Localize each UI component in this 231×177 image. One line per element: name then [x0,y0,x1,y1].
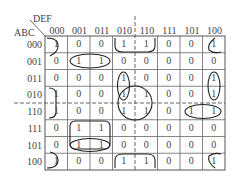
kmap-cell: 0 [68,86,91,103]
kmap-cell: 0 [158,137,181,154]
kmap-cell: 1 [203,153,226,170]
kmap-cell: 0 [203,120,226,137]
kmap-cell: 0 [203,53,226,70]
kmap-cell: 0 [90,103,113,120]
kmap-cell: 0 [158,53,181,70]
kmap-cell: 1 [68,120,91,137]
kmap-cell: 0 [135,70,158,87]
kmap-cell: 1 [113,103,136,120]
kmap-cell: 1 [113,153,136,170]
kmap-cell: 1 [113,36,136,53]
kmap-cell: 1 [135,36,158,53]
kmap-cell: 1 [45,153,68,170]
kmap-cell: 1 [135,86,158,103]
kmap-cell: 1 [90,120,113,137]
kmap-cell: 0 [180,137,203,154]
kmap-cell: 1 [203,36,226,53]
kmap-cell: 0 [90,86,113,103]
kmap-cell: 0 [45,120,68,137]
kmap-cell: 0 [180,70,203,87]
kmap-cell: 0 [180,86,203,103]
kmap-cell: 0 [158,120,181,137]
kmap-cell: 1 [203,86,226,103]
kmap-cell: 0 [158,70,181,87]
kmap-cell: 1 [90,53,113,70]
kmap-cell: 0 [68,153,91,170]
kmap-cell: 0 [90,70,113,87]
kmap-cell: 1 [113,70,136,87]
kmap-cell: 0 [45,137,68,154]
kmap-cell: 0 [135,137,158,154]
kmap-cell: 1 [135,103,158,120]
kmap-cell: 0 [158,86,181,103]
kmap-cell: 0 [45,70,68,87]
kmap-cell: 1 [113,86,136,103]
kmap-cell: 0 [68,36,91,53]
kmap-cell: 0 [113,53,136,70]
kmap-cell: 0 [135,120,158,137]
kmap-cell: 0 [158,36,181,53]
kmap-cell: 0 [180,53,203,70]
kmap-cell: 1 [203,70,226,87]
kmap-cell: 0 [113,120,136,137]
kmap-cell: 0 [135,53,158,70]
kmap-cell: 0 [180,36,203,53]
kmap-cell: 0 [158,103,181,120]
kmap-cell: 0 [180,120,203,137]
kmap-cell: 0 [90,153,113,170]
kmap-cell: 1 [68,137,91,154]
kmap-cell: 1 [135,153,158,170]
kmap-cell: 0 [68,103,91,120]
kmap-cell: 0 [180,153,203,170]
kmap-cell: 1 [45,103,68,120]
kmap-cell: 0 [68,70,91,87]
kmap-cell: 1 [180,103,203,120]
kmap-cell: 1 [90,137,113,154]
kmap-cell: 1 [68,53,91,70]
kmap-cell: 1 [203,103,226,120]
kmap-cell: 0 [113,137,136,154]
kmap-cell: 0 [90,36,113,53]
kmap-cell: 1 [45,86,68,103]
kmap-cell: 1 [45,36,68,53]
kmap-cell: 0 [158,153,181,170]
kmap-cell: 0 [45,53,68,70]
kmap-cell: 0 [203,137,226,154]
